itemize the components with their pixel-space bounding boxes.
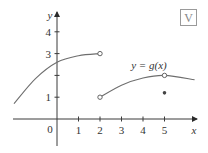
y-tick-label: 1: [46, 91, 52, 103]
curve-segment: [100, 75, 195, 97]
x-tick-label: 5: [162, 124, 168, 136]
x-tick-label: 4: [140, 124, 146, 136]
y-axis-label: y: [47, 9, 53, 21]
origin-label: 0: [47, 123, 53, 135]
graph: 12345134 x y 0 y = g(x) V: [0, 0, 208, 153]
y-tick-label: 4: [46, 26, 52, 38]
filled-point: [163, 91, 167, 95]
open-point: [162, 73, 166, 77]
x-tick-label: 1: [76, 124, 82, 136]
badge-glyph: V: [184, 11, 193, 25]
curve-label: y = g(x): [130, 59, 167, 72]
x-tick-label: 3: [119, 124, 125, 136]
graph-badge-icon: V: [181, 10, 197, 26]
open-point: [98, 51, 102, 55]
y-tick-label: 3: [46, 48, 52, 60]
open-point: [98, 95, 102, 99]
x-tick-label: 2: [97, 124, 103, 136]
x-axis-label: x: [191, 124, 197, 136]
